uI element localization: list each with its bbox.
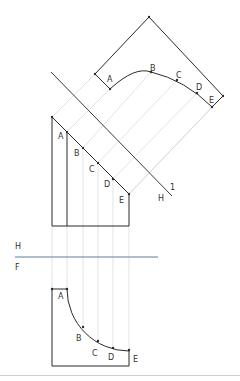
top-label-b: B <box>74 149 80 158</box>
front-label-d: D <box>108 353 114 362</box>
top-label-e: E <box>119 196 124 205</box>
front-label-c: C <box>92 349 98 358</box>
fold-h1-label-1: 1 <box>170 183 175 192</box>
aux-label-b: B <box>150 64 156 73</box>
aux-label-d: D <box>196 83 202 92</box>
top-label-d: D <box>104 180 110 189</box>
aux-label-c: C <box>176 71 182 80</box>
fold-h1-label-h: H <box>158 194 164 203</box>
top-label-c: C <box>89 165 95 174</box>
fold-line-hf: H F <box>15 242 158 272</box>
aux-label-a: A <box>107 75 113 84</box>
front-view: A B C D E <box>51 288 138 366</box>
diagram-canvas: A B C D E 1 H A B C D E H F <box>0 0 240 381</box>
vertical-projection-lines <box>52 150 129 350</box>
top-view: A B C D E <box>51 116 130 226</box>
auxiliary-view: A B C D E <box>94 16 224 108</box>
front-label-b: B <box>76 334 82 343</box>
fold-hf-label-f: F <box>15 263 20 272</box>
aux-label-e: E <box>209 96 214 105</box>
front-label-e: E <box>133 355 138 364</box>
top-label-a: A <box>58 132 64 141</box>
fold-hf-label-h: H <box>15 242 21 251</box>
front-label-a: A <box>58 292 64 301</box>
